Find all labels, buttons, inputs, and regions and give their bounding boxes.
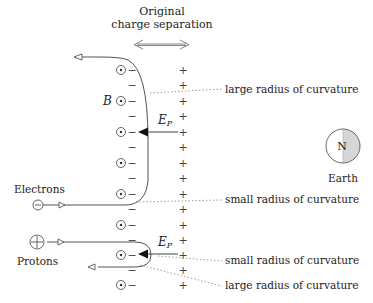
minus-sign: − [127,79,136,92]
plus-sign: + [178,157,187,170]
earth-label: Earth [328,172,358,184]
annotation-small-radius-top: small radius of curvature [225,193,359,205]
arrow-head-icon [58,239,64,245]
circled-dot-icon [117,281,126,290]
electrons-label: Electrons [14,183,65,195]
e-field-label-top: EP [157,113,173,128]
electron-particle [33,200,57,210]
plus-sign: + [178,219,187,232]
minus-sign: − [127,172,136,185]
plus-sign: + [178,172,187,185]
annotation-large-radius-top: large radius of curvature [225,83,358,95]
negative-charge-column: − − − − − − − − − − − − − − − [127,64,136,292]
electric-field-arrow-top [138,128,178,137]
annotation-small-radius-bottom: small radius of curvature [225,254,359,266]
arrow-head-icon [88,264,95,270]
minus-sign: − [127,279,136,292]
b-field-column [117,66,126,290]
b-field-label: B [102,94,112,108]
protons-label: Protons [17,255,58,267]
plus-sign: + [178,188,187,201]
plus-sign: + [178,126,187,139]
arrow-head-icon [59,202,65,208]
plus-sign: + [178,110,187,123]
minus-sign: − [127,95,136,108]
plus-sign: + [178,234,187,247]
proton-particle [30,235,44,249]
annotation-large-radius-bottom: large radius of curvature [225,279,358,291]
minus-sign: − [127,126,136,139]
circled-dot-icon [117,159,126,168]
plus-sign: + [178,264,187,277]
arrow-head-icon [74,54,82,60]
circled-dot-icon [117,66,126,75]
title-line-1: Original [139,5,185,18]
title-line-2: charge separation [111,18,212,31]
plus-sign: + [178,141,187,154]
minus-sign: − [127,141,136,154]
plus-sign: + [178,249,187,262]
circled-dot-icon [117,128,126,137]
plus-sign: + [178,79,187,92]
left-right-arrow-icon [134,40,189,49]
minus-sign: − [127,157,136,170]
circled-dot-icon [117,190,126,199]
title: Original charge separation [111,5,212,31]
charge-separation-diagram: Original charge separation B − − − − − −… [0,0,373,303]
e-field-label-bottom: EP [157,235,173,250]
plus-sign: + [178,95,187,108]
minus-sign: − [127,219,136,232]
minus-sign: − [127,249,136,262]
minus-sign: − [127,110,136,123]
plus-sign: + [178,64,187,77]
minus-sign: − [127,234,136,247]
minus-sign: − [127,188,136,201]
circled-dot-icon [117,251,126,260]
circled-dot-icon [117,221,126,230]
minus-sign: − [127,264,136,277]
plus-sign: + [178,203,187,216]
plus-sign: + [178,279,187,292]
earth-north-label: N [337,140,347,153]
circled-dot-icon [117,97,126,106]
